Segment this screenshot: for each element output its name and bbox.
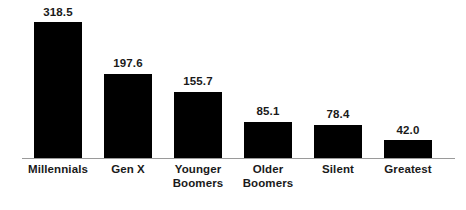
category-label-silent: Silent xyxy=(302,162,374,176)
category-label-line1: Silent xyxy=(322,163,354,175)
category-label-line2: Boomers xyxy=(162,176,234,190)
bar-group-gen-x[interactable]: 197.6 xyxy=(104,58,152,158)
category-label-younger-boomers: Younger Boomers xyxy=(162,162,234,190)
category-label-older-boomers: Older Boomers xyxy=(232,162,304,190)
bar-value-label: 42.0 xyxy=(397,125,420,137)
category-label-line1: Younger xyxy=(175,163,222,175)
bar-rect-millennials[interactable] xyxy=(34,22,82,158)
category-label-line1: Greatest xyxy=(384,163,431,175)
bar-rect-greatest[interactable] xyxy=(384,140,432,158)
bar-group-older-boomers[interactable]: 85.1 xyxy=(244,106,292,158)
plot-area: 318.5 197.6 155.7 85.1 78.4 42.0 xyxy=(0,0,466,158)
bar-group-silent[interactable]: 78.4 xyxy=(314,109,362,158)
bar-value-label: 155.7 xyxy=(183,76,212,88)
bar-rect-gen-x[interactable] xyxy=(104,74,152,158)
bar-value-label: 197.6 xyxy=(113,58,142,70)
category-label-millennials: Millennials xyxy=(22,162,94,176)
category-label-line1: Millennials xyxy=(28,163,88,175)
category-label-gen-x: Gen X xyxy=(92,162,164,176)
bar-rect-older-boomers[interactable] xyxy=(244,122,292,158)
category-label-line2: Boomers xyxy=(232,176,304,190)
category-label-greatest: Greatest xyxy=(372,162,444,176)
category-label-line1: Gen X xyxy=(111,163,145,175)
bar-rect-younger-boomers[interactable] xyxy=(174,92,222,158)
bar-value-label: 318.5 xyxy=(43,7,72,19)
bar-value-label: 85.1 xyxy=(257,106,280,118)
bar-group-greatest[interactable]: 42.0 xyxy=(384,125,432,158)
bar-group-younger-boomers[interactable]: 155.7 xyxy=(174,76,222,158)
bar-chart: 318.5 197.6 155.7 85.1 78.4 42.0 Millenn… xyxy=(0,0,466,210)
category-label-line1: Older xyxy=(253,163,284,175)
bar-group-millennials[interactable]: 318.5 xyxy=(34,7,82,159)
bar-rect-silent[interactable] xyxy=(314,125,362,158)
bar-value-label: 78.4 xyxy=(327,109,350,121)
x-axis-line xyxy=(22,158,455,159)
category-axis: Millennials Gen X Younger Boomers Older … xyxy=(0,162,466,210)
